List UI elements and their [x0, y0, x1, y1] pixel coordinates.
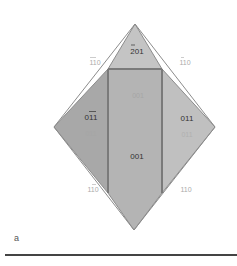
label-edge-lower-left: 110 [87, 186, 98, 193]
label-face-top: 201 [130, 47, 144, 56]
label-edge-lower-right: 110 [180, 186, 191, 193]
face-left [54, 69, 108, 193]
label-face-left: 011 [85, 113, 98, 122]
label-back-center: 001 [132, 92, 144, 99]
horizontal-rule [5, 254, 237, 256]
crystal-diagram: 201 011 011 001 001 011 011 110 110 110 … [0, 0, 237, 266]
panel-label: a [14, 233, 19, 243]
label-edge-upper-right: 110 [179, 59, 190, 66]
label-face-right: 011 [181, 114, 194, 123]
label-back-right: 011 [181, 131, 192, 138]
label-back-left: 011 [85, 130, 96, 137]
label-edge-upper-left: 110 [89, 59, 100, 66]
crystal-morphology-figure: 201 011 011 001 001 011 011 110 110 110 … [0, 0, 237, 266]
label-face-center: 001 [130, 152, 144, 161]
